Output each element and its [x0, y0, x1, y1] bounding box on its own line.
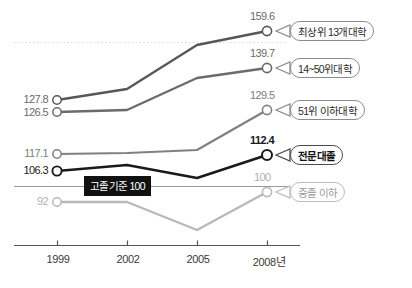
chart-container: 127.8 126.5 117.1 106.3 92 159.6 139.7 1… [0, 0, 412, 288]
marker-middle-school-2008 [262, 187, 271, 196]
marker-junior-college-2008 [262, 150, 272, 160]
value-label-left-middle-school: 92 [6, 195, 48, 207]
x-tick-label-1999: 1999 [32, 253, 84, 265]
baseline-badge: 고졸기준 100 [84, 176, 151, 196]
x-tick-label-2005: 2005 [172, 253, 224, 265]
value-label-left-junior-college: 106.3 [6, 164, 48, 176]
callout-junior-college[interactable]: 전문대졸 [290, 145, 343, 165]
series-line-middle-school [57, 192, 267, 230]
marker-rank51-below-1999 [53, 150, 61, 158]
marker-middle-school-1999 [53, 198, 61, 206]
callout-rank14-50[interactable]: 14~50위대학 [290, 58, 360, 78]
value-label-right-top13: 159.6 [250, 10, 275, 22]
line-chart-svg [0, 0, 412, 288]
x-tick-label-2002: 2002 [102, 253, 154, 265]
marker-rank51-below-2008 [262, 105, 271, 114]
value-label-left-top13: 127.8 [6, 93, 48, 105]
series-line-junior-college [57, 155, 267, 178]
marker-top13-1999 [53, 96, 61, 104]
callout-top13[interactable]: 최상위 13개대학 [290, 21, 374, 41]
callout-rank51-below[interactable]: 51위 이하대학 [290, 100, 365, 120]
value-label-left-rank51-below: 117.1 [6, 147, 48, 159]
x-tick-label-2008: 2008년 [240, 253, 298, 269]
marker-junior-college-1999 [52, 166, 61, 175]
callout-leaders [276, 25, 290, 198]
series-line-top13 [57, 31, 267, 100]
x-axis-ticks [58, 241, 268, 246]
series-line-rank14-50 [57, 68, 267, 112]
marker-rank14-50-1999 [53, 108, 61, 116]
value-label-left-rank14-50: 126.5 [6, 106, 48, 118]
value-label-right-middle-school: 100 [254, 171, 271, 183]
callout-middle-school[interactable]: 중졸 이하 [290, 182, 345, 202]
value-label-right-rank51-below: 129.5 [250, 89, 275, 101]
value-label-right-rank14-50: 139.7 [250, 47, 275, 59]
marker-rank14-50-2008 [262, 63, 271, 72]
marker-top13-2008 [262, 26, 271, 35]
series-line-rank51-below [57, 110, 267, 154]
value-label-right-junior-college: 112.4 [250, 134, 274, 146]
